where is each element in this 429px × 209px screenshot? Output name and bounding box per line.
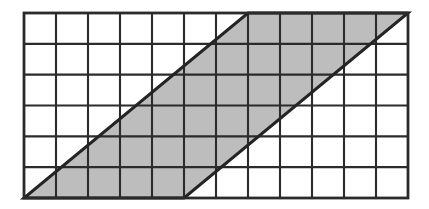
figure-root [0, 0, 429, 209]
grid-parallelogram-figure [0, 0, 429, 209]
